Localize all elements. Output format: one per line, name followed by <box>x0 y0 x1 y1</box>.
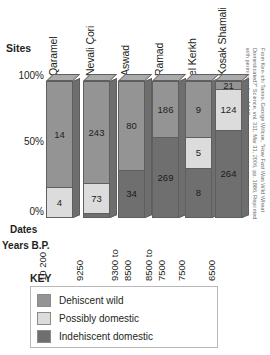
legend-item-dehiscent-wild: Dehiscent wild <box>37 292 123 308</box>
bar-segment-wild: 243 <box>84 82 109 183</box>
site-label-el-kerkh: el Kerkh <box>186 38 198 76</box>
bar-segment-value: 124 <box>221 105 237 115</box>
legend-item-indehiscent-domestic: Indehiscent domestic <box>37 328 153 344</box>
y-tick-100: 100% <box>6 70 44 81</box>
legend-swatch-indehiscent-domestic <box>37 330 51 343</box>
y-tick-0: 0% <box>6 206 44 217</box>
bar-stack: 144 <box>46 81 73 218</box>
bar-segment-value: 186 <box>158 105 174 115</box>
date-label: 9300 to <box>109 249 120 281</box>
dates-axis: Dates Years B.P. 10 20092509300 to850085… <box>0 222 270 272</box>
bar-segment-wild: 14 <box>47 82 72 187</box>
bar-kosak-shamali: 21124264 <box>215 81 242 218</box>
bar-segment-indeh: 8 <box>186 168 211 217</box>
bar-segment-poss: 73 <box>84 183 109 213</box>
legend-label-indehiscent-domestic: Indehiscent domestic <box>59 331 153 342</box>
date-label: 7500 <box>156 260 167 281</box>
bar-stack: 24373 <box>83 81 110 218</box>
bar-segment-value: 21 <box>223 82 234 89</box>
bar-stack: 186269 <box>152 81 179 218</box>
source-credit: From Ken-ichi Tanno, George Willcox, "Ho… <box>244 48 267 223</box>
chart-figure: Sites Qaramel Nevali Çori Aswad Ramad el… <box>0 0 270 355</box>
legend-swatch-dehiscent-wild <box>37 294 51 307</box>
bar-segment-value: 80 <box>126 121 137 131</box>
date-label: 8500 <box>122 260 133 281</box>
date-label: 7500 <box>176 260 187 281</box>
date-label: 8500 to <box>143 249 154 281</box>
site-label-aswad: Aswad <box>119 45 131 76</box>
site-label-kosak-shamali: Kosak Shamali <box>216 7 228 76</box>
site-label-nevali-cori: Nevali Çori <box>84 26 96 76</box>
site-label-ramad: Ramad <box>153 43 165 76</box>
bar-side-face <box>110 78 117 218</box>
bar-segment-value: 264 <box>221 169 237 179</box>
legend-box: Dehiscent wild Possibly domestic Indehis… <box>30 286 218 348</box>
bar-segment-value: 73 <box>91 194 102 204</box>
bar-segment-wild: 186 <box>153 82 178 137</box>
dates-axis-title: Dates <box>10 224 37 235</box>
bar-segment-poss: 5 <box>186 137 211 168</box>
bar-segment-wild: 80 <box>119 82 144 170</box>
bar-aswad: 8034 <box>118 81 145 218</box>
bar-segment-indeh: 269 <box>153 137 178 217</box>
bar-nevali-ori: 24373 <box>83 81 110 218</box>
date-label: 9250 <box>74 260 85 281</box>
bar-segment-value: 243 <box>89 128 105 138</box>
bar-segment-value: 269 <box>158 173 174 183</box>
bar-stack: 958 <box>185 81 212 218</box>
bar-segment-poss: 4 <box>47 187 72 217</box>
legend-swatch-possibly-domestic <box>37 312 51 325</box>
bar-segment-poss: 124 <box>216 89 241 130</box>
sites-axis-title: Sites <box>6 42 31 54</box>
legend-title: KEY <box>30 272 52 284</box>
bar-segment-value: 8 <box>196 188 201 198</box>
bar-segment-value: 14 <box>54 130 65 140</box>
dates-axis-subtitle: Years B.P. <box>2 240 50 251</box>
bar-segment-value: 4 <box>57 198 62 208</box>
bar-segment-value: 34 <box>126 189 137 199</box>
legend-label-dehiscent-wild: Dehiscent wild <box>59 295 123 306</box>
site-label-qaramel: Qaramel <box>47 36 59 76</box>
bar-stack: 21124264 <box>215 81 242 218</box>
legend-label-possibly-domestic: Possibly domestic <box>59 313 139 324</box>
plot-area: 100% 50% 0% 1442437380341862699582112426… <box>0 74 270 218</box>
bar-side-face <box>73 78 80 218</box>
bar-el-kerkh: 958 <box>185 81 212 218</box>
bar-stack: 8034 <box>118 81 145 218</box>
bar-qaramel: 144 <box>46 81 73 218</box>
bar-segment-wild: 21 <box>216 82 241 89</box>
bar-segment-indeh: 34 <box>119 170 144 217</box>
y-tick-50: 50% <box>6 136 44 147</box>
bar-segment-value: 5 <box>196 148 201 158</box>
legend-item-possibly-domestic: Possibly domestic <box>37 310 139 326</box>
sites-axis: Sites Qaramel Nevali Çori Aswad Ramad el… <box>0 0 270 76</box>
date-cell: 6500 <box>215 222 261 272</box>
bar-segment-indeh <box>84 213 109 217</box>
bar-side-face <box>145 78 152 218</box>
bar-ramad: 186269 <box>152 81 179 218</box>
bar-segment-wild: 9 <box>186 82 211 137</box>
bar-segment-value: 9 <box>196 105 201 115</box>
date-label: 6500 <box>206 260 217 281</box>
bar-segment-indeh: 264 <box>216 130 241 217</box>
